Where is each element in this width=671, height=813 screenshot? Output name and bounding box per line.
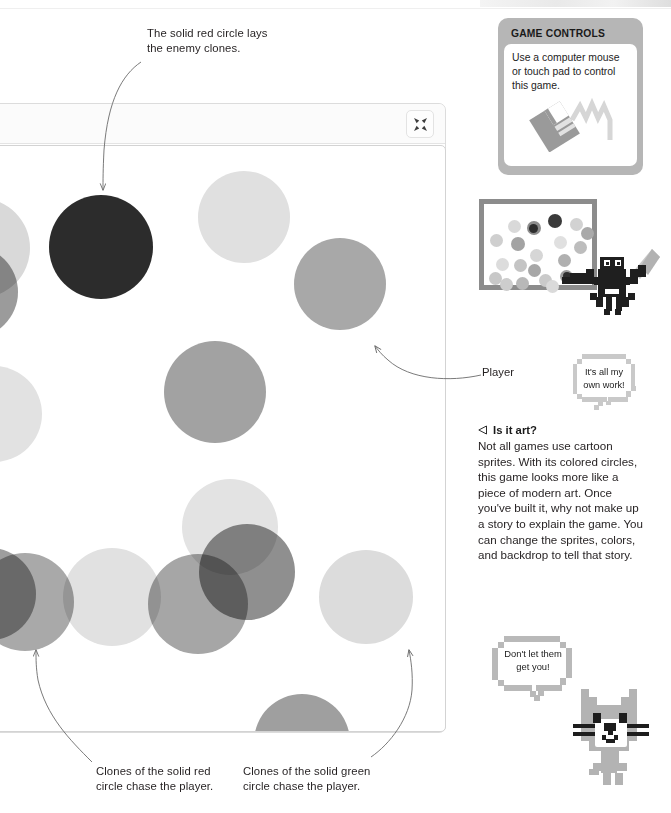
game-stage[interactable] — [0, 145, 446, 732]
player-label: Player — [482, 366, 514, 378]
controls-line-2: or touch pad to control — [512, 65, 629, 79]
shrink-fullscreen-icon — [413, 117, 428, 132]
callout-line-1: Clones of the solid green — [243, 764, 370, 779]
bat-speech-text: It's all my own work! — [568, 366, 640, 391]
stage-sprite-circle — [148, 554, 248, 654]
stage-toolbar — [0, 104, 445, 144]
stage-sprite-circle — [198, 171, 290, 263]
bat-speech-line-2: own work! — [568, 379, 640, 392]
computer-mouse-icon — [528, 94, 614, 152]
callout-line-2: the enemy clones. — [147, 41, 268, 56]
page-root: The solid red circle lays the enemy clon… — [0, 0, 671, 813]
stage-sprite-circle — [294, 238, 386, 330]
triangle-left-icon — [478, 425, 488, 435]
cat-speech-line-2: get you! — [488, 661, 578, 674]
right-sidebar: GAME CONTROLS Use a computer mouse or to… — [478, 0, 671, 813]
is-it-art-section: Is it art? Not all games use cartoon spr… — [478, 424, 668, 563]
callout-green-clones: Clones of the solid green circle chase t… — [243, 764, 370, 793]
stage-sprite-circle — [63, 548, 161, 646]
callout-line-1: The solid red circle lays — [147, 26, 268, 41]
is-it-art-heading-text: Is it art? — [493, 424, 537, 436]
game-controls-title: GAME CONTROLS — [511, 28, 637, 39]
callout-red-clones: Clones of the solid red circle chase the… — [96, 764, 213, 793]
callout-line-2: circle chase the player. — [96, 779, 213, 794]
callout-line-2: circle chase the player. — [243, 779, 370, 794]
cat-speech-line-1: Don't let them — [488, 648, 578, 661]
callout-red-circle: The solid red circle lays the enemy clon… — [147, 26, 268, 55]
stage-sprite-circle — [49, 195, 153, 299]
is-it-art-heading: Is it art? — [478, 424, 668, 436]
cat-speech-bubble: Don't let them get you! — [488, 634, 578, 702]
game-controls-panel: GAME CONTROLS Use a computer mouse or to… — [498, 18, 643, 175]
stage-sprite-circle — [0, 366, 42, 462]
game-controls-body: Use a computer mouse or touch pad to con… — [504, 44, 637, 166]
is-it-art-body: Not all games use cartoon sprites. With … — [478, 438, 643, 563]
stage-sprite-circle — [164, 341, 266, 443]
bat-speech-line-1: It's all my — [568, 366, 640, 379]
bat-speech-bubble: It's all my own work! — [568, 352, 640, 407]
controls-line-1: Use a computer mouse — [512, 51, 629, 65]
controls-line-3: this game. — [512, 79, 629, 93]
stage-sprite-circle — [319, 550, 413, 644]
game-controls-text: Use a computer mouse or touch pad to con… — [512, 51, 629, 94]
cat-character-sprite — [573, 685, 653, 793]
stage-wrapper — [0, 144, 447, 733]
scratch-stage-window — [0, 103, 446, 733]
callout-line-1: Clones of the solid red — [96, 764, 213, 779]
shrink-fullscreen-button[interactable] — [406, 110, 434, 138]
cat-speech-text: Don't let them get you! — [488, 648, 578, 673]
stage-sprite-circle — [254, 694, 350, 732]
bat-character-sprite — [560, 243, 666, 335]
